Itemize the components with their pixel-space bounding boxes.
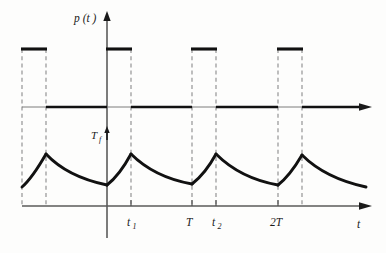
- temp-decay-1: [46, 154, 107, 185]
- temp-rise-2: [192, 154, 216, 184]
- x-axis-label: t: [357, 218, 361, 230]
- tick-label-T: T: [186, 216, 194, 228]
- tick-label-t1-subscript: 1: [133, 222, 137, 231]
- temp-decay-3: [216, 154, 278, 185]
- vertical-axis-group: [103, 11, 110, 238]
- tf-marker-group: [104, 126, 109, 140]
- tick-label-t2: t: [212, 216, 216, 228]
- tf-axis-label: T: [91, 129, 98, 141]
- y-axis-label: p (t ): [73, 12, 97, 25]
- tick-label-t1: t: [127, 216, 131, 228]
- tick-label-t2-subscript: 2: [218, 222, 222, 231]
- bottom-axis-group: [22, 202, 372, 210]
- dashed-connector-lines: [22, 49, 302, 206]
- bottom-axis-arrowhead: [359, 202, 372, 210]
- temp-decay-4: [302, 155, 366, 187]
- tf-axis-label-subscript: f: [99, 135, 103, 144]
- vertical-axis-arrowhead: [103, 11, 110, 21]
- figure-container: p (t ) T f t 1 T t 2 2T t: [0, 0, 386, 253]
- waveform-figure: p (t ) T f t 1 T t 2 2T t: [0, 0, 386, 253]
- zero-line-arrowhead: [359, 103, 372, 111]
- temp-rise-3: [278, 155, 302, 185]
- temp-rise-1: [107, 154, 131, 185]
- temp-rise-0: [22, 154, 46, 187]
- bottom-axis-ticks: [131, 200, 278, 206]
- temp-decay-2: [131, 154, 192, 184]
- temperature-waveform: [22, 154, 366, 187]
- tick-label-2T: 2T: [270, 216, 284, 228]
